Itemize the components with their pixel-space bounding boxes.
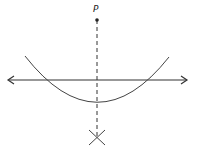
point-p-dot [95, 18, 99, 22]
perpendicular-construction-diagram: P [0, 0, 197, 155]
point-label-p: P [93, 4, 98, 14]
diagram-svg [0, 0, 197, 155]
